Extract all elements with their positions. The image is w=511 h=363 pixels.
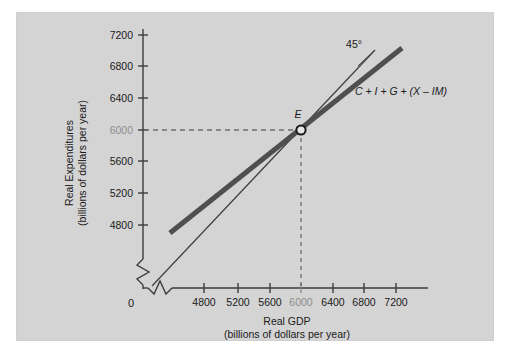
x-tick-label-5200: 5200	[226, 296, 250, 308]
x-tick-label-5600: 5600	[258, 296, 282, 308]
equilibrium-point-marker	[296, 125, 305, 134]
y-tick-label-6800: 6800	[110, 60, 134, 72]
x-axis-break-icon	[148, 281, 172, 294]
x-axis-title: Real GDP	[263, 315, 310, 327]
chart-svg: 7200 6800 6400 6000 5600 5200 4800 4800 …	[17, 13, 493, 340]
x-tick-label-7200: 7200	[384, 296, 408, 308]
forty-five-degree-line	[152, 50, 375, 286]
y-axis-subtitle: (billions of dollars per year)	[76, 100, 88, 226]
y-axis-tick-labels: 7200 6800 6400 6000 5600 5200 4800	[110, 29, 134, 231]
y-axis-break-icon	[137, 259, 149, 285]
forty-five-degree-label: 45°	[346, 38, 362, 50]
y-tick-label-6000: 6000	[110, 124, 134, 136]
x-axis-tick-labels: 4800 5200 5600 6000 6400 6800 7200	[192, 296, 408, 308]
figure-panel: 7200 6800 6400 6000 5600 5200 4800 4800 …	[17, 13, 493, 340]
x-tick-label-6400: 6400	[321, 296, 345, 308]
y-axis-title: Real Expenditures	[63, 120, 75, 206]
y-tick-label-7200: 7200	[110, 29, 134, 41]
x-tick-label-4800: 4800	[192, 296, 216, 308]
x-tick-label-6000: 6000	[289, 296, 313, 308]
y-tick-label-4800: 4800	[110, 219, 134, 231]
y-axis-title-group: Real Expenditures (billions of dollars p…	[63, 100, 88, 226]
x-axis-title-group: Real GDP (billions of dollars per year)	[224, 315, 350, 340]
origin-zero-label: 0	[128, 297, 134, 309]
aggregate-expenditure-label: C + I + G + (X – IM)	[355, 85, 447, 97]
y-tick-label-5200: 5200	[110, 187, 134, 199]
y-tick-label-5600: 5600	[110, 155, 134, 167]
forty-five-degree-leader-line	[358, 50, 375, 66]
x-tick-label-6800: 6800	[352, 296, 376, 308]
equilibrium-point-label: E	[294, 108, 302, 120]
aggregate-expenditure-line	[170, 48, 402, 233]
x-axis-subtitle: (billions of dollars per year)	[224, 328, 350, 340]
y-tick-label-6400: 6400	[110, 92, 134, 104]
